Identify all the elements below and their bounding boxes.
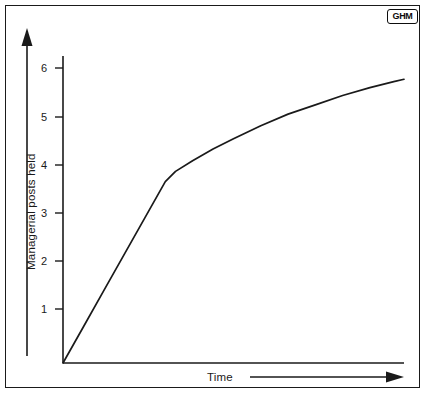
y-tick-label-2: 2 xyxy=(41,255,47,267)
data-series-line xyxy=(63,79,404,363)
y-tick-label-4: 4 xyxy=(41,159,47,171)
y-tick-label-1: 1 xyxy=(41,303,47,315)
y-axis-label: Managerial posts held xyxy=(25,153,37,270)
y-tick-marks xyxy=(55,68,63,309)
x-axis-direction-arrow xyxy=(250,372,404,383)
figure-container: GHM Managerial posts held 6 5 4 3 2 1 xyxy=(0,0,427,395)
x-axis-label: Time xyxy=(207,371,233,383)
line-chart: Managerial posts held 6 5 4 3 2 1 Time xyxy=(0,0,427,395)
y-tick-label-5: 5 xyxy=(41,111,47,123)
y-tick-label-3: 3 xyxy=(41,207,47,219)
y-tick-label-6: 6 xyxy=(41,62,47,74)
